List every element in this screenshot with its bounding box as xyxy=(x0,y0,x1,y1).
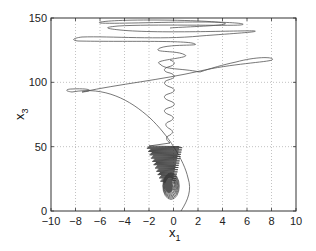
spiral-core xyxy=(165,179,173,193)
x-axis-label: x1 xyxy=(169,225,181,243)
y-tick-label: 50 xyxy=(35,141,47,153)
x-tick-label: −4 xyxy=(118,215,131,227)
y-tick-label: 150 xyxy=(29,12,47,24)
y-tick-label: 0 xyxy=(41,205,47,217)
x-tick-label: 4 xyxy=(219,215,225,227)
y-axis-label: x3 xyxy=(12,108,30,120)
trajectory-column xyxy=(164,60,174,143)
x-tick-label: 6 xyxy=(244,215,250,227)
x-tick-label: −8 xyxy=(69,215,82,227)
x-tick-label: 2 xyxy=(195,215,201,227)
trajectory-series xyxy=(67,20,273,211)
x-tick-label: −2 xyxy=(143,215,156,227)
x-tick-label: 8 xyxy=(268,215,274,227)
y-axis-ticks: 050100150 xyxy=(29,12,296,217)
y-tick-label: 100 xyxy=(29,76,47,88)
trajectory-crossing xyxy=(82,58,273,92)
x-tick-label: 10 xyxy=(290,215,302,227)
x-tick-label: −6 xyxy=(94,215,107,227)
chart: −10−8−6−4−20246810 050100150 x1 x3 xyxy=(0,0,316,251)
